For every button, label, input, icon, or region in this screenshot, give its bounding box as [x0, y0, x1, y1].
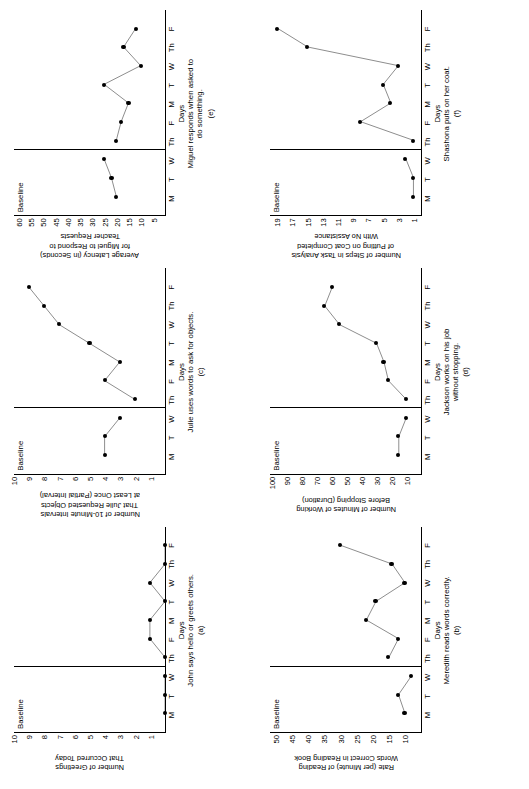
data-series-f [270, 10, 421, 215]
x-tick-label: M [167, 101, 176, 107]
y-tick-label: 1 [146, 735, 155, 739]
data-point-marker [148, 581, 152, 585]
x-tick-label: T [167, 436, 176, 441]
x-tick-label: F [167, 285, 176, 290]
x-tick-label: W [167, 63, 176, 70]
y-tick-label: 9 [25, 735, 34, 739]
y-tick-label: 60 [14, 218, 23, 226]
y-tick-label: 45 [288, 735, 297, 743]
x-tick-label: F [423, 121, 432, 126]
x-tick-label: W [167, 416, 176, 423]
y-tick-label: 9 [349, 218, 358, 222]
plot-area-e: Average Latency (in Seconds) for Miguel … [14, 10, 166, 262]
panel-letter-b: (b) [452, 527, 461, 734]
x-tick-label: Th [167, 654, 176, 663]
x-axis-ticks-f: MTWThFMTWThF [422, 10, 434, 217]
y-tick-label: 10 [10, 735, 19, 743]
y-tick-label: 1 [146, 477, 155, 481]
y-axis-ticks-a: 12345678910 [14, 733, 166, 748]
chart-caption-b: Meredith reads words correctly. [442, 527, 451, 734]
x-axis-ticks-a: MTWThFMTWThF [166, 527, 178, 734]
chart-caption-a: John says hello or greets others. [186, 527, 195, 734]
x-tick-label: W [167, 580, 176, 587]
y-axis-ticks-c: 12345678910 [14, 475, 166, 490]
x-tick-label: W [423, 416, 432, 423]
data-point-marker [364, 618, 368, 622]
chart-caption-f: Shashona puts on her coat. [442, 10, 451, 217]
y-tick-label: 5 [86, 477, 95, 481]
x-tick-label: T [423, 83, 432, 88]
data-point-marker [404, 416, 408, 420]
x-axis-label-d: Days [433, 268, 442, 475]
axes-d: Baseline [270, 268, 422, 474]
y-tick-label: 15 [303, 218, 312, 226]
x-tick-label: W [423, 321, 432, 328]
x-tick-label: Th [167, 43, 176, 52]
x-tick-label: Th [423, 302, 432, 311]
y-tick-label: 4 [101, 477, 110, 481]
y-tick-label: 100 [268, 477, 277, 490]
y-tick-label: 5 [379, 218, 388, 222]
x-tick-label: M [423, 618, 432, 624]
chart-panel-d: Number of Minutes of Working Before Stop… [270, 268, 522, 520]
x-tick-label: W [167, 674, 176, 681]
data-series-b [270, 527, 421, 732]
x-axis-ticks-b: MTWThFMTWThF [422, 527, 434, 734]
data-point-marker [402, 711, 406, 715]
data-point-marker [148, 637, 152, 641]
data-point-marker [133, 397, 137, 401]
y-tick-label: 3 [116, 477, 125, 481]
y-tick-label: 8 [40, 477, 49, 481]
panel-letter-d: (d) [461, 268, 470, 475]
data-point-marker [118, 416, 122, 420]
y-tick-label: 8 [40, 735, 49, 739]
y-tick-label: 60 [328, 477, 337, 485]
y-tick-label: 4 [101, 735, 110, 739]
x-tick-label: M [167, 618, 176, 624]
data-series-a [14, 527, 165, 732]
y-axis-label-e: Average Latency (in Seconds) for Miguel … [14, 231, 166, 262]
x-tick-label: Th [423, 396, 432, 405]
y-tick-label: 1 [409, 218, 418, 222]
axes-e: Baseline [14, 10, 166, 216]
axes-f: Baseline [270, 10, 422, 216]
data-point-marker [139, 64, 143, 68]
x-tick-label: T [167, 694, 176, 699]
x-tick-label: W [423, 157, 432, 164]
x-tick-label: Th [167, 560, 176, 569]
x-tick-label: W [167, 321, 176, 328]
y-axis-label-f: Number of Steps in Task Analysis of Putt… [270, 231, 422, 262]
plot-area-c: Number of 10-Minute Intervals That Julie… [14, 268, 166, 520]
data-series-e [14, 10, 165, 215]
chart-panel-b: Rate (per Minute) of Reading Words Corre… [270, 527, 522, 779]
y-tick-label: 7 [55, 735, 64, 739]
data-point-marker [381, 360, 385, 364]
y-tick-label: 25 [352, 735, 361, 743]
axes-c: Baseline [14, 268, 166, 474]
x-axis-label-f: Days [433, 10, 442, 217]
x-tick-label: F [167, 543, 176, 548]
panel-grid: Number of Greetings That Occurred Today1… [0, 0, 529, 789]
x-tick-label: M [423, 359, 432, 365]
x-tick-label: W [167, 157, 176, 164]
y-tick-label: 2 [131, 735, 140, 739]
x-tick-label: Th [167, 302, 176, 311]
chart-caption-c: Julie uses words to ask for objects. [186, 268, 195, 475]
data-point-marker [396, 64, 400, 68]
data-point-marker [396, 693, 400, 697]
x-tick-label: Th [423, 654, 432, 663]
y-tick-label: 35 [76, 218, 85, 226]
data-point-marker [103, 453, 107, 457]
x-tick-label: T [167, 600, 176, 605]
y-tick-label: 40 [304, 735, 313, 743]
data-point-marker [102, 83, 106, 87]
x-tick-label: W [423, 63, 432, 70]
x-axis-ticks-c: MTWThFMTWThF [166, 268, 178, 475]
data-point-marker [389, 562, 393, 566]
y-axis-ticks-e: 51015202530354045505560 [14, 216, 166, 231]
panel-letter-e: (e) [206, 10, 215, 217]
y-tick-label: 70 [313, 477, 322, 485]
y-tick-label: 20 [368, 735, 377, 743]
x-tick-label: M [423, 101, 432, 107]
y-tick-label: 10 [137, 218, 146, 226]
